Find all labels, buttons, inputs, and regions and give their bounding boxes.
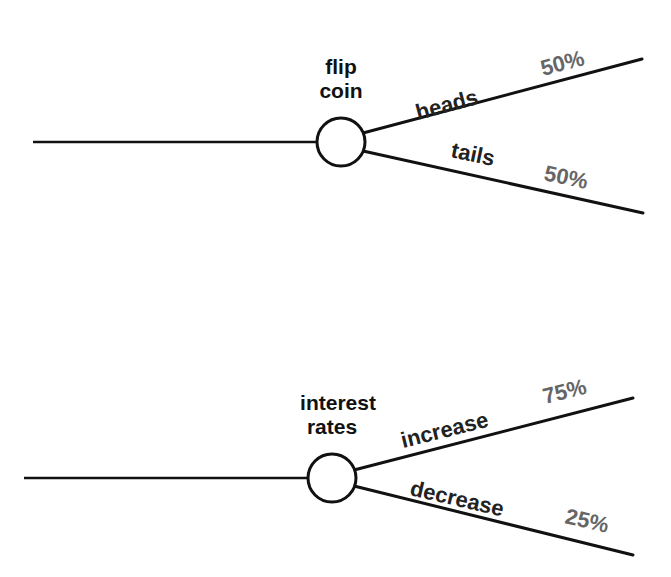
tree-interest-rates: interest rates increase 75% decrease 25% bbox=[24, 374, 633, 555]
probability-decrease: 25% bbox=[563, 504, 612, 538]
branch-label-decrease: decrease bbox=[408, 476, 507, 522]
probability-increase: 75% bbox=[540, 374, 589, 409]
branch-line-heads bbox=[363, 59, 642, 133]
node-label-line1: flip bbox=[325, 55, 357, 78]
chance-node-circle bbox=[317, 118, 365, 166]
branch-label-tails: tails bbox=[449, 137, 497, 171]
node-label-line2: rates bbox=[307, 415, 357, 438]
chance-node-circle bbox=[308, 454, 356, 502]
node-label-line1: interest bbox=[300, 391, 376, 414]
branch-line-increase bbox=[354, 398, 633, 470]
branch-line-tails bbox=[363, 151, 643, 213]
node-label-line2: coin bbox=[319, 79, 362, 102]
decision-tree-canvas: flip coin heads 50% tails 50% interest r… bbox=[0, 0, 671, 577]
branch-label-heads: heads bbox=[413, 84, 481, 125]
tree-flip-coin: flip coin heads 50% tails 50% bbox=[33, 45, 643, 213]
probability-tails: 50% bbox=[542, 160, 590, 194]
